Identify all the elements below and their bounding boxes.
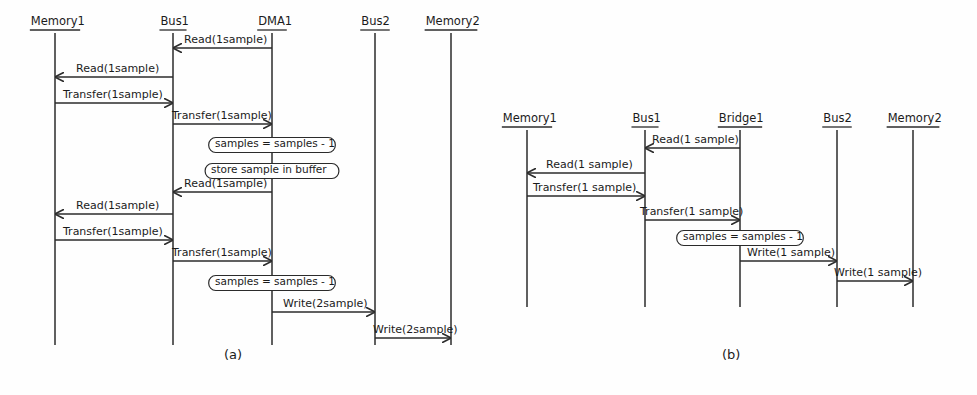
- lifeline-header-memory2: Memory2: [888, 113, 942, 125]
- lifeline-header-memory1: Memory1: [503, 113, 557, 125]
- figure-caption-a: (a): [224, 348, 242, 361]
- message-label: Read(1sample): [184, 34, 267, 45]
- lifeline-header-bus1: Bus1: [632, 113, 661, 125]
- lifeline-header-bus2: Bus2: [823, 113, 852, 125]
- lifeline-header-bus1: Bus1: [160, 16, 189, 28]
- message-label: Transfer(1sample): [63, 89, 163, 100]
- message-label: Read(1sample): [76, 63, 159, 74]
- figure-canvas: Memory1Bus1DMA1Bus2Memory2Read(1sample)R…: [0, 0, 977, 395]
- sequence-diagram-svg: [0, 0, 977, 395]
- message-label: Read(1 sample): [652, 134, 739, 145]
- lifeline-header-dma1: DMA1: [258, 16, 292, 28]
- lifeline-header-bus2: Bus2: [361, 16, 390, 28]
- message-label: Write(1 sample): [747, 247, 835, 258]
- note-label: samples = samples - 1: [683, 231, 803, 242]
- message-label: Write(1 sample): [834, 267, 922, 278]
- message-label: Write(2sample): [283, 298, 368, 309]
- note-label: samples = samples - 1: [215, 138, 335, 149]
- note-label: store sample in buffer: [211, 164, 327, 175]
- message-label: Transfer(1 sample): [533, 182, 636, 193]
- message-label: Transfer(1sample): [172, 110, 272, 121]
- message-label: Read(1 sample): [546, 159, 633, 170]
- message-label: Read(1sample): [76, 200, 159, 211]
- message-label: Read(1sample): [184, 178, 267, 189]
- message-label: Transfer(1 sample): [640, 206, 743, 217]
- note-label: samples = samples - 1: [215, 276, 335, 287]
- lifeline-header-memory1: Memory1: [31, 16, 85, 28]
- message-label: Transfer(1sample): [172, 247, 272, 258]
- message-label: Write(2sample): [373, 324, 458, 335]
- message-label: Transfer(1sample): [63, 226, 163, 237]
- figure-caption-b: (b): [722, 348, 740, 361]
- lifeline-header-memory2: Memory2: [426, 16, 480, 28]
- lifeline-header-bridge1: Bridge1: [719, 113, 764, 125]
